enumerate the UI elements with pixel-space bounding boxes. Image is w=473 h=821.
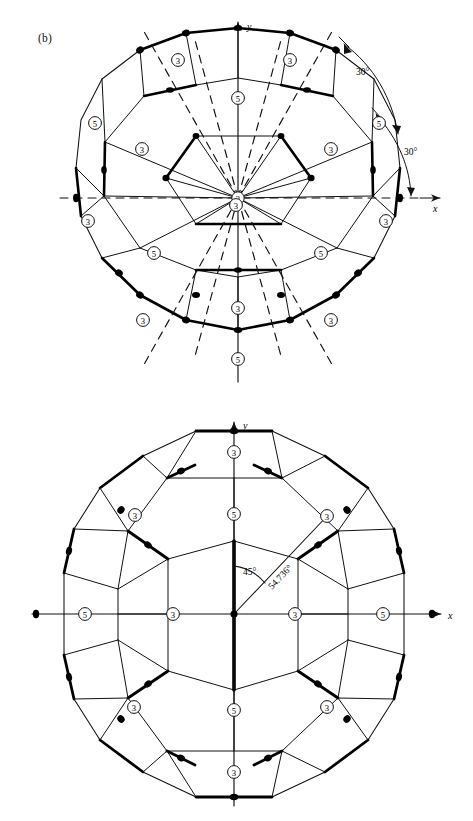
- marker-order-label: 3: [329, 145, 333, 155]
- axis-order-marker-5: 5: [232, 353, 245, 366]
- axis-order-marker-5: 5: [228, 704, 241, 717]
- marker-order-label: 3: [384, 217, 388, 227]
- axis-order-marker-3: 3: [82, 215, 95, 228]
- angle-label-30-lower: 30°: [404, 147, 418, 157]
- angle-indicator-c: [234, 513, 330, 614]
- axis-order-marker-3: 3: [232, 302, 245, 315]
- figure-c-panel: (c): [0, 400, 473, 821]
- axis-order-marker-3: 3: [137, 314, 150, 327]
- axis-order-marker-3: 3: [228, 446, 241, 459]
- axis-order-marker-3: 3: [228, 766, 241, 779]
- marker-order-label: 3: [325, 703, 329, 713]
- x-axis-label-c: x: [447, 610, 453, 621]
- axis-order-marker-5: 5: [232, 92, 245, 105]
- angle-label-30-upper: 30°: [356, 67, 370, 77]
- axis-order-marker-5: 5: [148, 247, 161, 260]
- marker-order-label: 3: [171, 610, 175, 620]
- marker-order-label: 3: [140, 145, 144, 155]
- angle-arc-30-upper: [339, 37, 401, 134]
- x-axis-b: [420, 194, 440, 202]
- figure-b-panel: (b): [0, 0, 473, 410]
- marker-order-label: 5: [152, 249, 156, 259]
- axis-order-marker-5: 5: [377, 608, 390, 621]
- marker-order-label: 3: [232, 448, 236, 458]
- y-axis-label-c: y: [242, 420, 248, 431]
- svg-text:30°: 30°: [356, 67, 370, 77]
- marker-order-label: 3: [236, 304, 240, 314]
- marker-order-label: 3: [86, 217, 90, 227]
- marker-order-label: 5: [381, 610, 385, 620]
- axis-order-marker-3: 3: [284, 54, 297, 67]
- x-axis-label-b: x: [432, 203, 438, 214]
- marker-order-label: 3: [293, 610, 297, 620]
- axis-order-marker-5: 5: [89, 117, 102, 130]
- axis-order-marker-5: 5: [228, 508, 241, 521]
- marker-order-label: 5: [236, 94, 240, 104]
- axis-order-marker-3: 3: [289, 608, 302, 621]
- angle-label-54736: 54.736°: [266, 563, 294, 592]
- axis-order-marker-3: 3: [321, 701, 334, 714]
- figure-c-drawing: x y 45° 54.736° 335353353533: [0, 400, 473, 821]
- marker-order-label: 5: [232, 510, 236, 520]
- marker-order-label: 3: [132, 703, 136, 713]
- marker-order-label: 5: [232, 706, 236, 716]
- marker-order-label: 5: [93, 119, 97, 129]
- axis-order-marker-3: 3: [167, 608, 180, 621]
- figure-b-drawing: y x 30° 30° 3 3355533333553335: [0, 0, 473, 410]
- y-axis-label-b: y: [246, 21, 252, 32]
- svg-text:30°: 30°: [404, 147, 418, 157]
- axis-order-marker-5: 5: [315, 247, 328, 260]
- marker-order-label: 5: [236, 355, 240, 365]
- marker-order-label: 5: [319, 249, 323, 259]
- marker-order-label: 3: [325, 512, 329, 522]
- axis-order-marker-3: 3: [128, 701, 141, 714]
- panel-label-b: (b): [38, 32, 52, 44]
- axis-order-marker-3: 3: [380, 215, 393, 228]
- axis-order-marker-3: 3: [230, 199, 243, 212]
- axis-order-marker-3: 3: [321, 510, 334, 523]
- marker-order-label: 3: [133, 511, 137, 521]
- marker-order-label: 3: [176, 56, 180, 66]
- marker-order-label: 3: [234, 201, 238, 211]
- axis-order-marker-5: 5: [373, 117, 386, 130]
- angle-label-45: 45°: [243, 567, 257, 577]
- marker-order-label: 5: [83, 610, 87, 620]
- marker-order-label: 3: [141, 316, 145, 326]
- marker-order-label: 5: [377, 119, 381, 129]
- marker-order-label: 3: [232, 768, 236, 778]
- axis-order-marker-3: 3: [325, 314, 338, 327]
- marker-order-label: 3: [329, 316, 333, 326]
- axis-order-marker-3: 3: [325, 143, 338, 156]
- marker-order-label: 3: [288, 56, 292, 66]
- axis-order-marker-5: 5: [79, 608, 92, 621]
- axis-order-marker-3: 3: [172, 54, 185, 67]
- axis-order-markers-b: 3355533333553335: [82, 54, 393, 366]
- axis-order-marker-3: 3: [136, 143, 149, 156]
- axis-order-marker-3: 3: [129, 509, 142, 522]
